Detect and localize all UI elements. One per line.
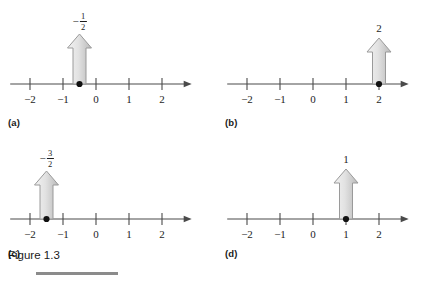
vector-value-label: −32	[39, 149, 53, 168]
tick-label: −2	[24, 229, 36, 240]
fraction-body: 32	[47, 149, 54, 168]
tick-label: 2	[159, 94, 165, 105]
vector-value-label: 2	[376, 23, 382, 34]
fraction-numerator: 1	[80, 12, 86, 21]
fraction-numerator: 3	[47, 149, 53, 158]
fraction-sign: −	[72, 16, 78, 27]
tick-label: −1	[57, 94, 69, 105]
tick-label: 1	[343, 229, 349, 240]
tick-label: 1	[126, 94, 132, 105]
fraction-body: 12	[80, 12, 87, 31]
tick-label: −2	[24, 94, 36, 105]
panel-label-d: (d)	[225, 249, 237, 259]
panel-b: (b) −2−10122	[217, 0, 434, 135]
vector-value-label: −12	[72, 12, 86, 31]
tick-label: 2	[376, 94, 382, 105]
fraction-denominator: 2	[80, 23, 86, 32]
tick-label: −2	[241, 229, 253, 240]
fraction-denominator: 2	[47, 160, 53, 169]
tick-label: 0	[310, 229, 316, 240]
tick-label: −1	[274, 229, 286, 240]
fraction-label: −32	[39, 149, 53, 168]
figure-caption: Figure 1.3	[8, 250, 60, 262]
tick-label: 0	[93, 94, 99, 105]
tick-label: 2	[376, 229, 382, 240]
figure-rule	[36, 272, 118, 275]
tick-label: −1	[274, 94, 286, 105]
tick-label: −1	[57, 229, 69, 240]
figure-1-3: (a) −2−1012−12 (b) −2−10122 (c) −2−1012−…	[0, 0, 434, 282]
tick-label: 2	[159, 229, 165, 240]
panel-a: (a) −2−1012−12	[0, 0, 217, 135]
tick-label: 0	[310, 94, 316, 105]
fraction-sign: −	[39, 153, 45, 164]
panel-label-a: (a)	[8, 118, 20, 128]
panel-d: (d) −2−10121	[217, 135, 434, 270]
vector-value-label: 1	[343, 154, 349, 165]
fraction-label: −12	[72, 12, 86, 31]
tick-label: 0	[93, 229, 99, 240]
tick-label: 1	[343, 94, 349, 105]
tick-label: −2	[241, 94, 253, 105]
tick-label: 1	[126, 229, 132, 240]
panel-label-b: (b)	[225, 118, 237, 128]
